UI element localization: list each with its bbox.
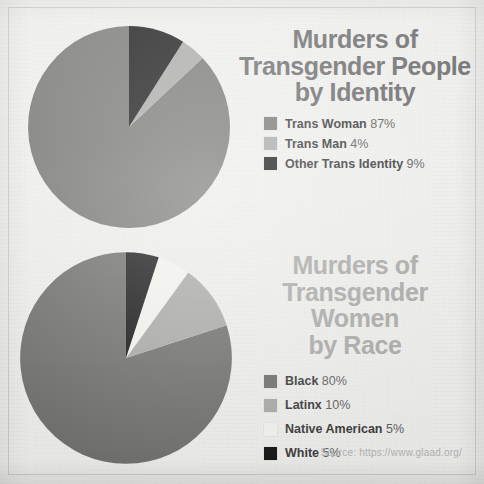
- legend-label-name: Trans Woman: [285, 117, 367, 131]
- legend-label-percent: 80%: [322, 374, 347, 388]
- chart-title-race-line2: Transgender Women: [282, 278, 428, 333]
- chart-title-identity-line1: Murders of: [292, 25, 417, 53]
- legend-label-name: Trans Man: [285, 137, 347, 151]
- legend-label: Latinx 10%: [285, 398, 350, 412]
- legend-label-percent: 9%: [407, 157, 425, 171]
- legend-label-percent: 4%: [350, 137, 368, 151]
- pie-slices-race: [20, 252, 232, 464]
- pie-chart-identity: [26, 24, 232, 230]
- legend-item: Trans Woman 87%: [264, 117, 474, 131]
- legend-label: Trans Man 4%: [285, 137, 368, 151]
- chart-title-race-line1: Murders of: [292, 251, 417, 279]
- pie-chart-race: [18, 250, 234, 466]
- legend-swatch: [264, 423, 277, 436]
- legend-item: Other Trans Identity 9%: [264, 157, 474, 171]
- legend-label-name: Native American: [285, 422, 383, 436]
- source-attribution: Source: https://www.glaad.org/: [320, 447, 462, 458]
- chart-title-identity-line2: Transgender People: [239, 52, 471, 80]
- legend-swatch: [264, 157, 277, 170]
- legend-label-name: Latinx: [285, 398, 322, 412]
- pie-chart-race-svg: [18, 250, 234, 466]
- legend-label-name: Other Trans Identity: [285, 157, 403, 171]
- legend-label-name: White: [285, 446, 319, 460]
- legend-label: Native American 5%: [285, 422, 404, 436]
- chart-identity-text-column: Murders of Transgender People by Identit…: [236, 26, 474, 177]
- legend-swatch: [264, 399, 277, 412]
- legend-label-percent: 10%: [325, 398, 350, 412]
- legend-label-percent: 5%: [386, 422, 404, 436]
- legend-item: Native American 5%: [264, 422, 474, 436]
- legend-label: Other Trans Identity 9%: [285, 157, 425, 171]
- legend-item: Trans Man 4%: [264, 137, 474, 151]
- chart-title-race: Murders of Transgender Women by Race: [236, 252, 474, 358]
- pie-chart-identity-svg: [26, 24, 232, 230]
- legend-swatch: [264, 375, 277, 388]
- pie-slices-identity: [28, 26, 230, 228]
- legend-swatch: [264, 447, 277, 460]
- legend-swatch: [264, 117, 277, 130]
- chart-block-identity: Murders of Transgender People by Identit…: [0, 0, 484, 240]
- chart-title-identity-line3: by Identity: [295, 78, 416, 106]
- legend-item: Latinx 10%: [264, 398, 474, 412]
- legend-label-percent: 87%: [370, 117, 395, 131]
- legend-item: Black 80%: [264, 374, 474, 388]
- chart-race-text-column: Murders of Transgender Women by Race Bla…: [236, 252, 474, 470]
- legend-label-name: Black: [285, 374, 318, 388]
- legend-swatch: [264, 137, 277, 150]
- infographic-poster: Murders of Transgender People by Identit…: [0, 0, 484, 484]
- chart-title-identity: Murders of Transgender People by Identit…: [236, 26, 474, 106]
- legend-label: Black 80%: [285, 374, 347, 388]
- chart-title-race-line3: by Race: [308, 331, 401, 359]
- legend-identity: Trans Woman 87%Trans Man 4%Other Trans I…: [236, 117, 474, 171]
- legend-label: Trans Woman 87%: [285, 117, 395, 131]
